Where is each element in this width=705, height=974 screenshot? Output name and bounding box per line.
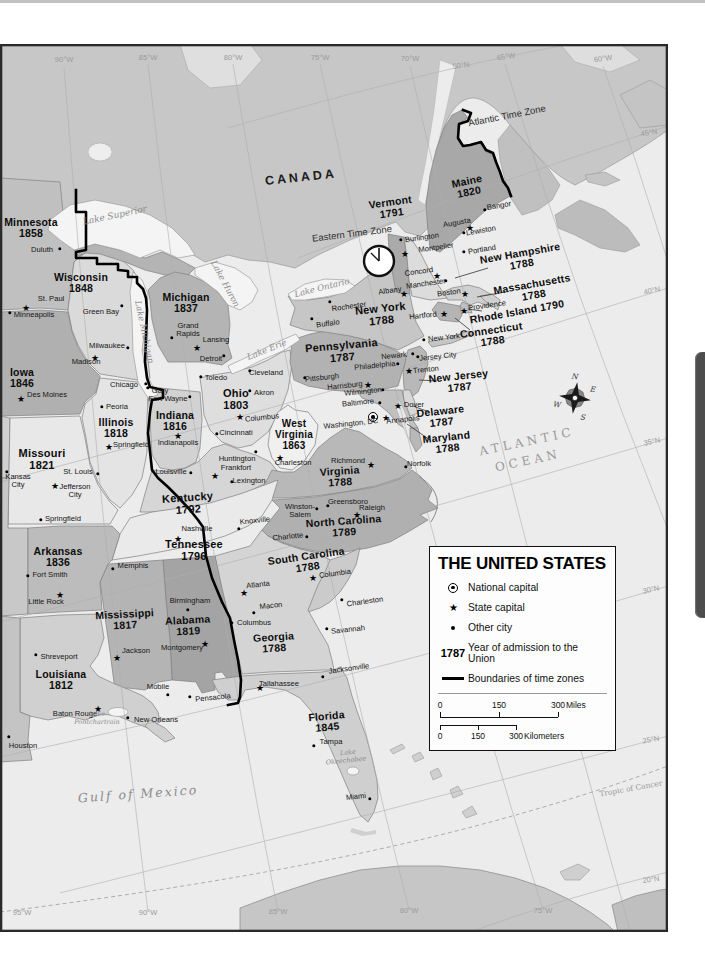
scale-tick [478, 725, 479, 730]
legend-item: Boundaries of time zones [438, 673, 607, 684]
page-top-edge [0, 0, 705, 3]
legend-item-label: Other city [468, 622, 512, 633]
compass-hub [572, 395, 578, 401]
side-drawer-handle[interactable] [695, 352, 705, 618]
legend-symbol-state-icon: ★ [438, 603, 468, 613]
scale-label: Kilometers [524, 731, 564, 741]
scale-label: 150 [471, 731, 485, 741]
scale-label: Miles [566, 700, 586, 710]
legend-title: THE UNITED STATES [438, 554, 607, 574]
map-canvas [0, 44, 668, 932]
map-legend: THE UNITED STATES National capital★State… [429, 546, 616, 751]
legend-item: ★State capital [438, 602, 607, 613]
scale-label: 300 [509, 731, 523, 741]
legend-items: National capital★State capitalOther city… [438, 582, 607, 684]
legend-separator [438, 693, 607, 694]
scale-label: 300 [551, 700, 565, 710]
timezone-clock-icon [364, 246, 394, 276]
scale-tick [499, 712, 500, 717]
canada-small-lake [88, 143, 112, 161]
legend-item-label: State capital [468, 602, 525, 613]
scale-tick [516, 725, 517, 730]
legend-item-label: Boundaries of time zones [468, 673, 584, 684]
lake-pontchartrain [108, 708, 128, 717]
scale-line [440, 717, 558, 718]
scale-bar: 0150300Miles0150300Kilometers [438, 700, 607, 744]
scale-tick [440, 725, 441, 730]
scale-label: 0 [438, 700, 443, 710]
legend-symbol-other-icon [438, 626, 468, 630]
legend-item-label: National capital [468, 582, 538, 593]
legend-item: 1787Year of admission to the Union [438, 642, 607, 664]
scale-tick [558, 712, 559, 717]
scale-label: 150 [492, 700, 506, 710]
legend-symbol-year-icon: 1787 [438, 647, 468, 659]
legend-symbol-national-icon [438, 583, 468, 593]
textbook-map-page: { "palette":{"ocean":"#ececec","canada":… [0, 0, 705, 974]
legend-item: Other city [438, 622, 607, 633]
scale-tick [440, 712, 441, 717]
legend-symbol-line-icon [438, 677, 468, 680]
scale-label: 0 [438, 731, 443, 741]
lake-okeechobee [347, 767, 359, 775]
legend-item: National capital [438, 582, 607, 593]
legend-item-label: Year of admission to the Union [468, 642, 607, 664]
